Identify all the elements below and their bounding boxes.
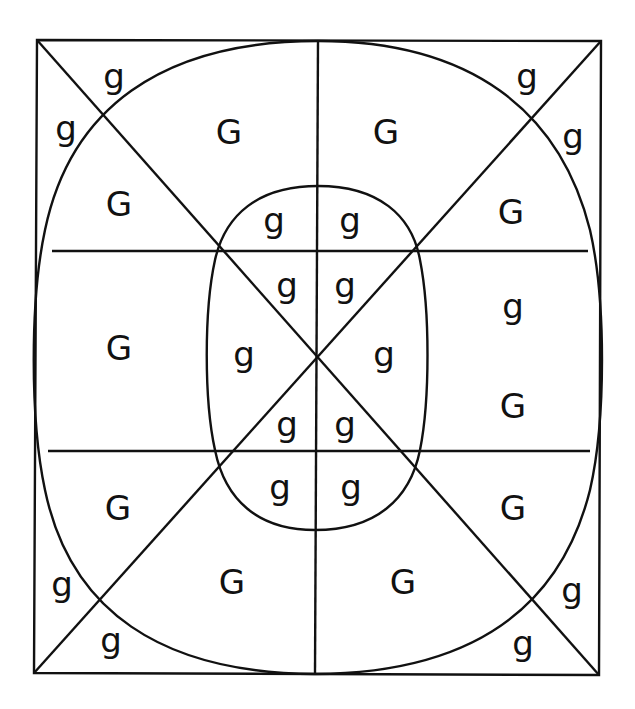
- label-lowercase-g: g: [516, 56, 538, 96]
- label-lowercase-g: g: [502, 286, 524, 326]
- label-lowercase-g: g: [562, 116, 584, 156]
- label-capital-g: G: [498, 192, 524, 232]
- label-capital-g: G: [105, 488, 131, 528]
- label-lowercase-g: g: [233, 334, 255, 374]
- label-lowercase-g: g: [340, 467, 362, 507]
- label-lowercase-g: g: [512, 623, 534, 663]
- label-lowercase-g: g: [51, 564, 73, 604]
- label-capital-g: G: [373, 112, 399, 152]
- label-capital-g: G: [500, 386, 526, 426]
- label-lowercase-g: g: [276, 404, 298, 444]
- label-capital-g: G: [219, 562, 245, 602]
- label-lowercase-g: g: [334, 404, 356, 444]
- label-lowercase-g: g: [103, 56, 125, 96]
- label-lowercase-g: g: [373, 334, 395, 374]
- letter-grid-diagram: ggGGggGggGgggGggGggggGGGGgggg: [0, 0, 635, 709]
- label-capital-g: G: [106, 328, 132, 368]
- label-capital-g: G: [106, 184, 132, 224]
- label-lowercase-g: g: [561, 570, 583, 610]
- label-lowercase-g: g: [339, 200, 361, 240]
- label-capital-g: G: [390, 562, 416, 602]
- label-capital-g: G: [500, 488, 526, 528]
- label-lowercase-g: g: [334, 265, 356, 305]
- label-lowercase-g: g: [263, 200, 285, 240]
- label-lowercase-g: g: [276, 265, 298, 305]
- label-lowercase-g: g: [269, 467, 291, 507]
- label-capital-g: G: [216, 112, 242, 152]
- label-lowercase-g: g: [55, 108, 77, 148]
- label-lowercase-g: g: [100, 620, 122, 660]
